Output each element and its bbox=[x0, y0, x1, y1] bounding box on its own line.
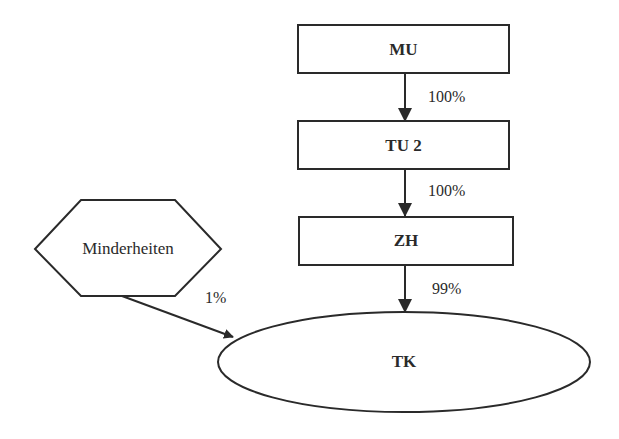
node-mu-label: MU bbox=[389, 40, 417, 59]
node-minderheiten: Minderheiten bbox=[35, 200, 221, 296]
edge-zh-tk: 99% bbox=[405, 265, 461, 312]
node-zh-label: ZH bbox=[394, 231, 419, 250]
edge-mu-tu2-label: 100% bbox=[428, 88, 465, 105]
edge-zh-tk-label: 99% bbox=[432, 280, 461, 297]
edge-tu2-zh-label: 100% bbox=[428, 182, 465, 199]
node-zh: ZH bbox=[299, 217, 513, 265]
node-tk-label: TK bbox=[392, 352, 417, 371]
node-mu: MU bbox=[298, 25, 509, 73]
node-minderheiten-label: Minderheiten bbox=[82, 239, 174, 258]
ownership-diagram: MU 100% TU 2 100% ZH 99% Minderheiten 1%… bbox=[0, 0, 619, 439]
node-tu2-label: TU 2 bbox=[385, 136, 421, 155]
edge-mu-tu2: 100% bbox=[405, 73, 465, 121]
edge-tu2-zh: 100% bbox=[405, 169, 465, 216]
node-tk: TK bbox=[218, 312, 590, 412]
node-tu2: TU 2 bbox=[298, 121, 509, 169]
edge-minderheiten-tk-label: 1% bbox=[205, 289, 226, 306]
